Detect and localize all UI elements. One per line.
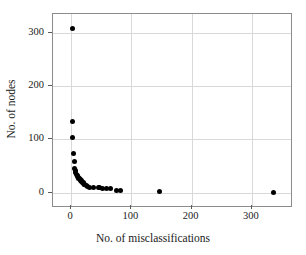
gridline-vertical [131,14,132,206]
plot-area [52,13,292,207]
y-axis-tick [48,138,52,139]
data-point [71,151,76,156]
gridline-vertical [192,14,193,206]
x-axis-tick-label: 200 [171,210,211,221]
y-axis-tick [48,192,52,193]
y-axis-tick-label: 0 [10,186,44,197]
x-axis-title: No. of misclassifications [0,232,306,244]
x-axis-tick [70,205,71,209]
gridline-horizontal [53,139,291,140]
data-point [118,188,123,193]
y-axis-title: No. of nodes [5,49,17,169]
gridline-horizontal [53,193,291,194]
x-axis-tick [251,205,252,209]
scatter-chart-figure: 01002003000100200300 No. of misclassific… [0,0,306,255]
x-axis-tick-label: 100 [110,210,150,221]
x-axis-tick-label: 0 [50,210,90,221]
x-axis-tick [191,205,192,209]
gridline-horizontal [53,33,291,34]
x-axis-tick [130,205,131,209]
y-axis-tick [48,32,52,33]
data-point [70,119,75,124]
y-axis-tick [48,85,52,86]
gridline-vertical [252,14,253,206]
y-axis-tick-label: 300 [10,26,44,37]
data-point [271,190,276,195]
data-point [72,159,77,164]
gridline-vertical [71,14,72,206]
data-point [70,26,75,31]
x-axis-tick-label: 300 [231,210,271,221]
gridline-horizontal [53,86,291,87]
data-point [108,186,113,191]
